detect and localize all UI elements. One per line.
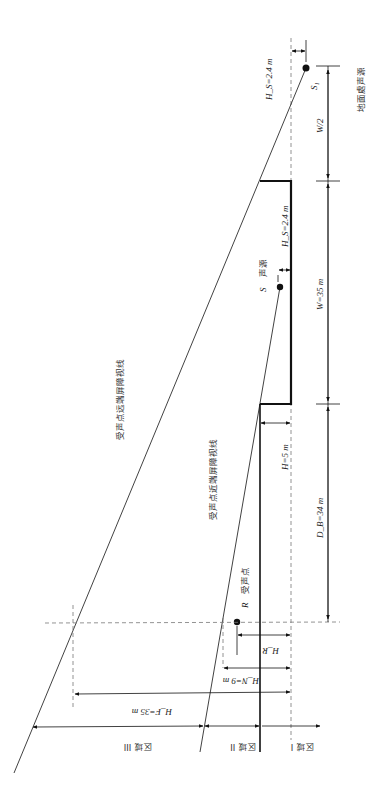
label-source-desc: 声源 [258, 259, 268, 277]
label-s: S [258, 287, 268, 292]
label-w2: W/2 [315, 118, 325, 133]
label-near-sightline: 受声点近端屏障视线 [208, 439, 218, 520]
label-zone1: 区域 I [291, 742, 314, 752]
label-zone3: 区域 III [124, 742, 152, 752]
ground-source-point [303, 65, 310, 72]
source-point [277, 284, 283, 290]
label-zone2: 区域 II [230, 742, 256, 752]
label-hr: H_R [262, 646, 280, 656]
label-receiver-desc: 受声点 [240, 567, 250, 594]
label-hn: H_N=9 m [222, 676, 260, 686]
label-db: D_B=34 m [315, 497, 325, 539]
dim-HF [75, 692, 290, 694]
label-hs-source: H_S=2.4 m [280, 205, 290, 248]
label-hs-ground: H_S=2.4 m [264, 58, 274, 101]
barrier-sightline-diagram: H_S=2.4 m S₁ 地面處声源 W/2 H_S=2.4 m 声源 S W=… [0, 0, 379, 809]
label-h: H=5 m [280, 444, 290, 471]
label-r: R [240, 602, 250, 609]
dim-zone3 [33, 726, 203, 727]
label-s1: S₁ [309, 82, 319, 90]
label-far-sightline: 受声点远端屏障视线 [115, 359, 125, 440]
label-hf: H_F=35 m [131, 707, 173, 717]
label-ground-source-desc: 地面處声源 [356, 67, 366, 112]
far-sightline [14, 68, 306, 773]
receiver-dashed-line [45, 622, 340, 623]
label-w: W=35 m [315, 278, 325, 310]
